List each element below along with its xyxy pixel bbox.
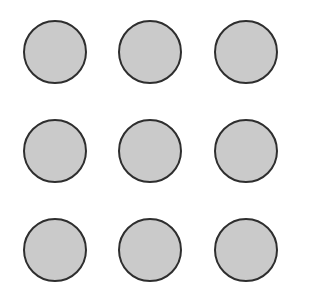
circle-r2-c0 — [23, 218, 87, 282]
circle-r0-c2 — [214, 20, 278, 84]
circle-r0-c0 — [23, 20, 87, 84]
circle-r2-c2 — [214, 218, 278, 282]
circle-r2-c1 — [118, 218, 182, 282]
circle-r1-c0 — [23, 119, 87, 183]
circle-r0-c1 — [118, 20, 182, 84]
circle-r1-c1 — [118, 119, 182, 183]
circle-r1-c2 — [214, 119, 278, 183]
